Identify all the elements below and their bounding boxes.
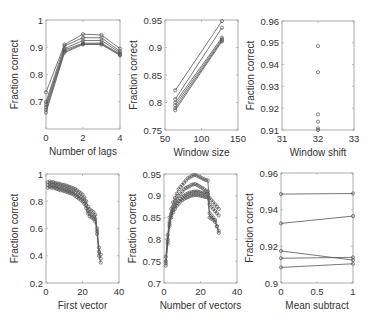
data-series (281, 216, 353, 223)
y-tick-label: 0.75 (144, 125, 163, 136)
axes-box (164, 174, 237, 283)
y-tick-label: 0.9 (149, 42, 162, 53)
y-tick-label: 0.96 (261, 16, 280, 27)
chart-canvas: 0240.70.80.91Number of lagsFraction corr… (0, 0, 375, 325)
x-tick-label: 20 (77, 286, 88, 297)
x-tick-label: 33 (349, 133, 360, 144)
x-tick-label: 0 (278, 286, 283, 297)
y-tick-label: 0.94 (260, 204, 279, 215)
y-tick-label: 0.8 (30, 69, 43, 80)
y-tick-label: 0.95 (261, 37, 280, 48)
x-tick-label: 4 (117, 132, 122, 143)
x-tick-label: 0 (161, 286, 166, 297)
y-tick-label: 0.8 (148, 234, 161, 245)
subplot-3: 020400.20.40.60.81First vectorFraction c… (9, 169, 124, 312)
x-axis-label: First vector (58, 300, 108, 311)
y-axis-label: Fraction correct (128, 40, 139, 110)
data-series (166, 175, 219, 257)
x-tick-label: 100 (194, 133, 210, 144)
data-series (281, 264, 353, 268)
x-tick-label: 40 (114, 286, 125, 297)
x-tick-label: 150 (230, 133, 246, 144)
data-series (48, 187, 101, 263)
data-point (316, 44, 319, 47)
y-tick-label: 0.95 (143, 169, 162, 180)
data-series (281, 194, 353, 195)
x-axis-label: Window size (173, 147, 230, 158)
y-axis-label: Fraction correct (244, 193, 255, 263)
y-tick-label: 0.8 (149, 97, 162, 108)
y-tick-label: 0.93 (261, 81, 280, 92)
y-tick-label: 0.4 (30, 250, 43, 261)
x-tick-label: 1 (350, 286, 355, 297)
x-axis-label: Window shift (290, 147, 347, 158)
y-tick-label: 0.7 (148, 278, 161, 289)
y-tick-label: 0.85 (143, 212, 162, 223)
data-point (316, 120, 319, 123)
y-tick-label: 0.9 (265, 278, 278, 289)
y-tick-label: 0.2 (30, 278, 43, 289)
subplot-4: 020400.70.750.80.850.90.95Number of vect… (127, 169, 242, 312)
data-series (175, 39, 222, 105)
y-axis-label: Fraction correct (9, 40, 20, 110)
x-tick-label: 40 (232, 286, 243, 297)
x-tick-label: 0.5 (310, 286, 323, 297)
y-tick-label: 0.92 (260, 241, 279, 252)
x-tick-label: 0 (43, 132, 48, 143)
y-tick-label: 0.9 (148, 190, 161, 201)
axes-box (282, 21, 354, 130)
data-point (316, 113, 319, 116)
y-tick-label: 0.8 (30, 196, 43, 207)
data-series (175, 38, 222, 103)
data-series (175, 40, 222, 108)
y-tick-label: 1 (38, 169, 43, 180)
data-point (316, 71, 319, 74)
y-tick-label: 0.7 (30, 96, 43, 107)
subplot-1: 501001500.750.80.850.90.95Window sizeFra… (128, 15, 246, 159)
data-series (175, 21, 222, 90)
y-tick-label: 0.9 (30, 42, 43, 53)
y-tick-label: 1 (38, 15, 43, 26)
x-axis-label: Number of lags (49, 146, 117, 157)
y-tick-label: 0.94 (261, 59, 280, 70)
y-tick-label: 0.85 (144, 70, 163, 81)
x-tick-label: 2 (80, 132, 85, 143)
data-series (175, 41, 222, 110)
data-series (166, 191, 219, 263)
data-series (46, 45, 120, 113)
y-tick-label: 0.91 (261, 125, 280, 136)
x-tick-label: 20 (195, 286, 206, 297)
x-axis-label: Number of vectors (160, 300, 242, 311)
data-series (281, 257, 353, 258)
y-tick-label: 0.75 (143, 256, 162, 267)
subplot-2: 3132330.910.920.930.940.950.96Window shi… (245, 16, 359, 159)
data-series (175, 28, 222, 100)
x-axis-label: Mean subtract (285, 300, 349, 311)
y-axis-label: Fraction correct (127, 194, 138, 264)
y-tick-label: 0.6 (30, 223, 43, 234)
axes-box (165, 20, 238, 130)
x-tick-label: 0 (43, 286, 48, 297)
figure: 0240.70.80.91Number of lagsFraction corr… (0, 0, 375, 325)
y-axis-label: Fraction correct (245, 41, 256, 111)
subplot-0: 0240.70.80.91Number of lagsFraction corr… (9, 15, 123, 158)
y-tick-label: 0.92 (261, 103, 280, 114)
y-tick-label: 0.96 (260, 168, 279, 179)
subplot-5: 00.510.90.920.940.96Mean subtractFractio… (244, 168, 356, 312)
x-tick-label: 32 (313, 133, 324, 144)
data-series (281, 251, 353, 260)
y-axis-label: Fraction correct (9, 194, 20, 264)
y-tick-label: 0.95 (144, 15, 163, 26)
